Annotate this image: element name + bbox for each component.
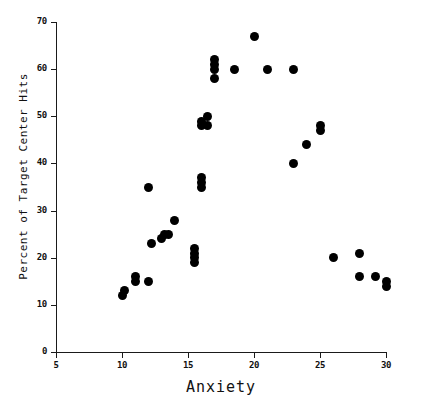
data-point — [203, 112, 212, 121]
x-tick-label: 10 — [110, 360, 134, 370]
y-tick-label: 0 — [25, 346, 47, 356]
data-point — [263, 65, 272, 74]
data-point — [144, 277, 153, 286]
data-point — [210, 74, 219, 83]
scatter-chart-figure: 010203040506070 51015202530 Anxiety Perc… — [0, 0, 442, 415]
y-axis-title: Percent of Target Center Hits — [17, 37, 30, 317]
data-point — [131, 277, 140, 286]
data-point — [147, 239, 156, 248]
data-point — [144, 183, 153, 192]
data-point — [355, 272, 364, 281]
x-axis-line — [56, 352, 387, 353]
x-tick — [254, 353, 255, 358]
data-point — [382, 277, 391, 286]
x-tick-label: 5 — [44, 360, 68, 370]
data-point — [230, 65, 239, 74]
x-tick-label: 20 — [242, 360, 266, 370]
x-tick — [122, 353, 123, 358]
x-tick-label: 15 — [176, 360, 200, 370]
x-tick — [188, 353, 189, 358]
data-point — [250, 32, 259, 41]
data-point — [190, 244, 199, 253]
x-tick — [320, 353, 321, 358]
data-point — [120, 286, 129, 295]
data-point — [329, 253, 338, 262]
y-tick-label: 70 — [25, 16, 47, 26]
x-tick — [386, 353, 387, 358]
x-axis-title: Anxiety — [0, 378, 442, 396]
plot-area — [56, 22, 386, 352]
data-point — [371, 272, 380, 281]
x-tick — [56, 353, 57, 358]
data-point — [164, 230, 173, 239]
x-tick-label: 30 — [374, 360, 398, 370]
data-point — [302, 140, 311, 149]
x-tick-label: 25 — [308, 360, 332, 370]
data-point — [203, 121, 212, 130]
data-point — [289, 159, 298, 168]
data-point — [170, 216, 179, 225]
data-point — [289, 65, 298, 74]
data-point — [316, 121, 325, 130]
data-point — [355, 249, 364, 258]
data-point — [197, 173, 206, 182]
